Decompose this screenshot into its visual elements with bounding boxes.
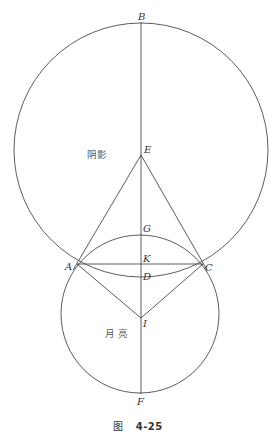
moon-circle [61, 235, 219, 393]
label-C: C [205, 262, 213, 273]
figure-caption: 图4-25 [0, 418, 276, 433]
line-EC [141, 155, 207, 270]
label-I: I [142, 318, 148, 329]
label-D: D [142, 271, 151, 282]
label-B: B [137, 11, 145, 22]
label-K: K [142, 253, 151, 264]
caption-figure-number: 4-25 [136, 421, 163, 432]
label-A: A [64, 261, 72, 272]
line-AI [77, 264, 141, 318]
label-moon: 月 亮 [105, 328, 128, 339]
geometry-diagram: B E G A K C D I F 阴影 月 亮 [0, 0, 276, 436]
label-shadow: 阴影 [87, 149, 107, 160]
label-E: E [143, 144, 152, 155]
label-F: F [136, 396, 145, 407]
label-G: G [143, 223, 151, 234]
line-EA [73, 155, 141, 270]
caption-figure-word: 图 [113, 421, 124, 432]
